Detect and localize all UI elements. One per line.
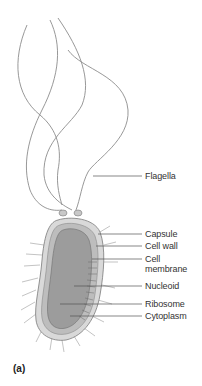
label-nucleoid: Nucleoid: [145, 282, 179, 291]
label-cytoplasm: Cytoplasm: [145, 312, 187, 321]
panel-label: (a): [13, 363, 25, 374]
label-ribosome: Ribosome: [145, 300, 185, 309]
label-flagella: Flagella: [145, 172, 176, 181]
flagella-strands: [18, 18, 128, 210]
label-cell-wall: Cell wall: [145, 242, 178, 251]
label-cell-membrane-line2: membrane: [145, 265, 187, 274]
label-cell-membrane-line1: Cell: [145, 255, 160, 264]
bacterium-diagram: [0, 0, 202, 386]
label-capsule: Capsule: [145, 230, 177, 239]
flagella-basal-bodies: [59, 210, 82, 216]
